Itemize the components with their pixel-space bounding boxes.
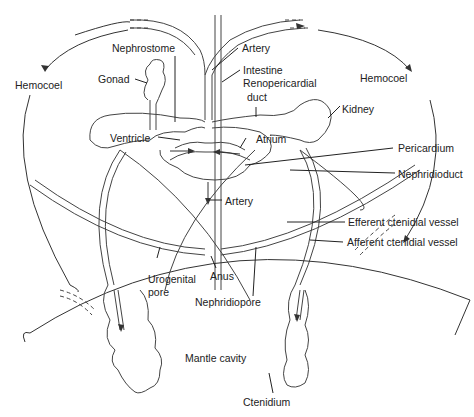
- label-hemocoel-left: Hemocoel: [15, 79, 62, 91]
- label-intestine: Intestine: [243, 64, 283, 76]
- label-nephridiopore: Nephridiopore: [195, 296, 261, 308]
- gonad: [144, 60, 165, 131]
- label-anus: Anus: [210, 270, 234, 282]
- label-artery-top: Artery: [242, 42, 270, 54]
- label-urogenital-pore-2: pore: [148, 286, 169, 298]
- hemocoel-loop-right: [318, 30, 436, 243]
- label-ventricle: Ventricle: [110, 132, 150, 144]
- label-nephridioduct: Nephridioduct: [398, 168, 463, 180]
- ctenidial-vessels: [30, 148, 420, 315]
- label-mantle-cavity: Mantle cavity: [185, 352, 246, 364]
- label-renopericardial-duct-1: Renopericardial: [243, 77, 317, 89]
- label-hemocoel-right: Hemocoel: [360, 72, 407, 84]
- ctenidium-left: [103, 285, 161, 393]
- ctenidium-right: [284, 285, 309, 387]
- hemocoel-loop-left: [23, 22, 130, 292]
- label-afferent-ctenidial-vessel: Afferent ctenidial vessel: [347, 236, 458, 248]
- label-atrium: Atrium: [256, 133, 286, 145]
- label-urogenital-pore-1: Urogenital: [148, 273, 196, 285]
- label-nephrostome: Nephrostome: [112, 42, 175, 54]
- label-pericardium: Pericardium: [398, 142, 454, 154]
- label-renopericardial-duct-2: duct: [247, 91, 267, 103]
- label-kidney: Kidney: [342, 103, 374, 115]
- label-ctenidium: Ctenidium: [243, 396, 290, 408]
- aorta-vessels: [130, 20, 310, 120]
- label-efferent-ctenidial-vessel: Efferent ctenidial vessel: [348, 216, 459, 228]
- label-artery-bottom: Artery: [225, 195, 253, 207]
- label-gonad: Gonad: [98, 73, 130, 85]
